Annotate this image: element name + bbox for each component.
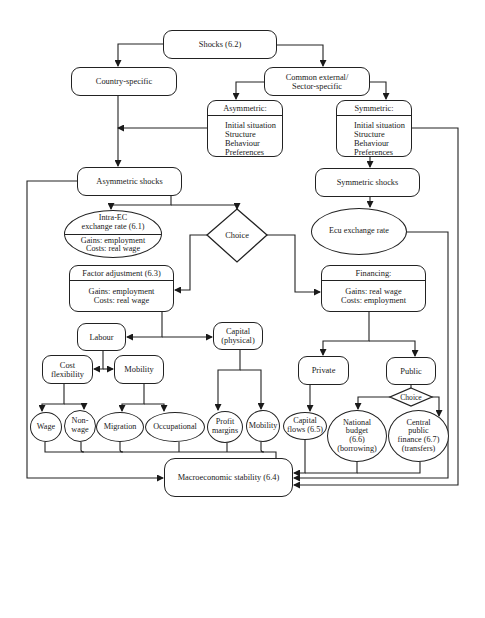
node-body: Initial situation Structure Behaviour Pr… [343, 116, 405, 159]
node-symmetric-shocks: Symmetric shocks [315, 168, 420, 197]
node-label: Macroeconomic stability (6.4) [178, 473, 280, 482]
item: Initial situation [225, 121, 276, 130]
node-header: Factor adjustment (6.3) [70, 266, 173, 281]
item: Structure [225, 130, 256, 139]
node-label: Private [312, 366, 336, 375]
node-label: (physical) [221, 336, 255, 345]
node-label: Wage [37, 423, 55, 432]
flowchart-canvas: Shocks (6.2) Country-specific Common ext… [0, 0, 485, 618]
node-public: Public [386, 357, 436, 385]
node-header: Intra-EC exchange rate (6.1) [65, 214, 161, 234]
node-label: Ecu exchange rate [329, 227, 389, 236]
node-central-public-finance: Central public finance (6.7) (transfers) [388, 410, 449, 462]
node-label: Mobility [124, 365, 153, 374]
item: Structure [354, 130, 385, 139]
node-country-specific: Country-specific [71, 67, 177, 96]
node-label: Shocks (6.2) [199, 40, 241, 49]
choice-main-label: Choice [207, 226, 267, 244]
node-body: Initial situation Structure Behaviour Pr… [214, 116, 276, 159]
node-financing: Financing: Gains: real wage Costs: emplo… [321, 265, 426, 312]
node-intra-ec-exchange-rate: Intra-EC exchange rate (6.1) Gains: empl… [64, 210, 162, 258]
node-national-budget: National budget (6.6) (borrowing) [327, 410, 387, 462]
body-line: Gains: real wage [341, 287, 406, 296]
body-line: Costs: real wage [81, 245, 145, 254]
item: Preferences [225, 148, 264, 157]
node-label: Capital [226, 327, 250, 336]
header-line: exchange rate (6.1) [65, 223, 161, 232]
node-factor-adjustment: Factor adjustment (6.3) Gains: employmen… [69, 265, 174, 312]
node-label: wage [71, 426, 88, 435]
node-header: Symmetric: [337, 101, 411, 116]
body-line: Gains: employment [89, 287, 155, 296]
node-capital-physical: Capital (physical) [213, 322, 263, 350]
node-label: (borrowing) [337, 445, 377, 454]
item: Initial situation [354, 121, 405, 130]
node-body: Gains: real wage Costs: employment [341, 281, 406, 311]
body-line: Costs: employment [341, 296, 406, 305]
node-header: Asymmetric: [208, 101, 282, 116]
node-label: Cost [60, 361, 75, 370]
node-mobility-labour: Mobility [114, 355, 164, 384]
node-migration: Migration [96, 412, 144, 442]
node-mobility-capital: Mobility [246, 410, 280, 442]
node-cost-flexibility: Cost flexibility [42, 355, 93, 384]
node-occupational: Occupational [145, 412, 205, 442]
item: Behaviour [225, 139, 260, 148]
node-wage: Wage [30, 412, 62, 442]
node-symmetric: Symmetric: Initial situation Structure B… [336, 100, 412, 157]
node-private: Private [298, 356, 349, 385]
node-common-external: Common external/ Sector-specific [264, 67, 370, 96]
node-label: Mobility [249, 422, 278, 431]
item: Behaviour [354, 139, 389, 148]
item: Preferences [354, 148, 393, 157]
node-label: Migration [104, 423, 137, 432]
node-label: Country-specific [96, 77, 152, 86]
node-body: Gains: employment Costs: real wage [89, 281, 155, 311]
node-label: flows (6.5) [287, 426, 323, 435]
node-label: Labour [89, 333, 113, 342]
node-capital-flows: Capital flows (6.5) [283, 412, 327, 440]
node-label: Symmetric shocks [337, 178, 399, 187]
node-label: Occupational [153, 423, 197, 432]
node-label: Public [400, 367, 421, 376]
node-ecu-exchange-rate: Ecu exchange rate [311, 208, 407, 255]
node-non-wage: Non- wage [64, 410, 96, 442]
node-macroeconomic-stability: Macroeconomic stability (6.4) [164, 458, 293, 497]
node-label: (transfers) [402, 445, 436, 454]
node-asymmetric: Asymmetric: Initial situation Structure … [207, 100, 283, 157]
node-shocks: Shocks (6.2) [163, 30, 277, 59]
choice-public-label: Choice [390, 390, 432, 404]
node-header: Financing: [322, 266, 425, 281]
body-line: Costs: real wage [89, 296, 155, 305]
node-body: Gains: employment Costs: real wage [81, 235, 145, 254]
node-label: Common external/ [286, 73, 349, 82]
node-label: margins [212, 427, 238, 436]
node-profit-margins: Profit margins [207, 411, 243, 443]
node-labour: Labour [77, 323, 126, 351]
node-label: Sector-specific [292, 82, 342, 91]
node-asymmetric-shocks: Asymmetric shocks [77, 167, 182, 196]
node-label: flexibility [51, 370, 84, 379]
node-label: Asymmetric shocks [96, 177, 162, 186]
